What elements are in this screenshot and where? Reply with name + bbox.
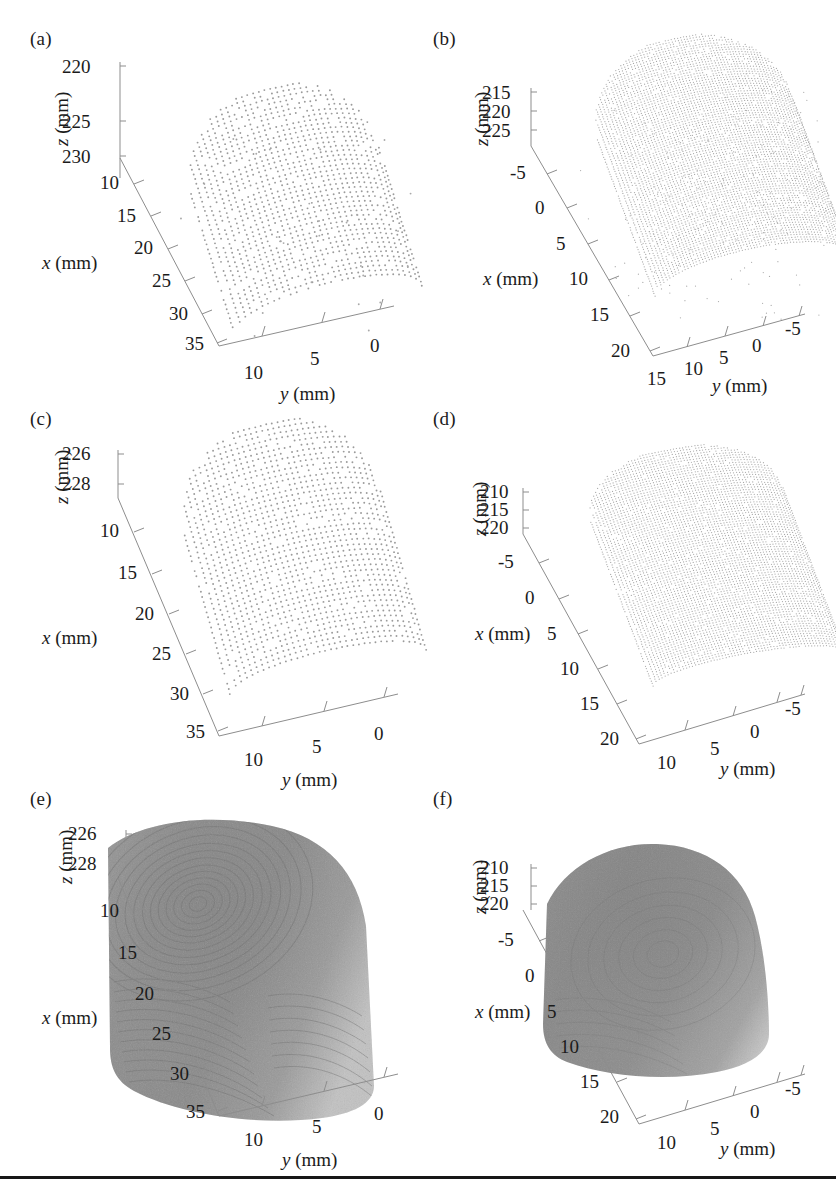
panel-d-ytick-2: 0 (750, 722, 760, 741)
panel-e-ytick-2: 0 (374, 1104, 384, 1123)
panel-d-xtick-0: -5 (498, 552, 514, 571)
panel-d-yaxis-name: y (mm) (720, 759, 775, 778)
panel-c-xtick-4: 30 (170, 684, 189, 703)
panel-b-plot: 215 220 225 z (mm) -5 0 5 10 15 20 x (mm… (425, 26, 825, 411)
panel-d-xtick-2: 5 (547, 624, 557, 643)
panel-f-plot: 210 215 220 z (mm) -5 0 5 10 15 20 x (mm… (425, 786, 825, 1171)
panel-b-xaxis-name: x (mm) (483, 269, 538, 288)
panel-f: (f) (425, 786, 825, 1171)
panel-f-ytick-1: 5 (710, 1119, 720, 1138)
panel-a-xtick-1: 15 (117, 206, 136, 225)
panel-e-xtick-4: 30 (170, 1064, 189, 1083)
panel-e-ytick-0: 10 (244, 1130, 263, 1149)
panel-d-plot: 210 215 220 z (mm) -5 0 5 10 15 20 x (mm… (425, 406, 825, 791)
footer-rule (0, 1176, 836, 1179)
panel-f-xtick-2: 5 (547, 1002, 557, 1021)
panel-b: (b) 215 220 (425, 26, 825, 411)
panel-d: (d) 210 215 (425, 406, 825, 791)
panel-a-point-cloud (180, 82, 423, 337)
panel-f-xtick-5: 20 (600, 1107, 619, 1126)
panel-d-ytick-1: 5 (710, 739, 720, 758)
panel-b-point-cloud (580, 34, 836, 320)
panel-c-xtick-1: 15 (118, 563, 137, 582)
panel-c-xtick-5: 35 (186, 722, 205, 741)
panel-f-ytick-2: 0 (750, 1102, 760, 1121)
panel-f-xtick-4: 15 (580, 1072, 599, 1091)
panel-b-zaxis-name: z (mm) (472, 92, 491, 146)
panel-c-ytick-0: 10 (244, 750, 263, 769)
panel-a-zaxis-name: z (mm) (52, 92, 71, 146)
panel-d-zaxis-name: z (mm) (470, 482, 489, 536)
panel-b-ytick-3: 0 (752, 336, 762, 355)
panel-e-xaxis-name: x (mm) (42, 1008, 97, 1027)
panel-a-xtick-4: 30 (169, 304, 188, 323)
panel-a-xtick-0: 10 (100, 173, 119, 192)
panel-d-xtick-4: 15 (580, 694, 599, 713)
panel-a: (a) (22, 26, 422, 411)
panel-e-ytick-1: 5 (312, 1117, 322, 1136)
panel-f-xtick-0: -5 (498, 930, 514, 949)
panel-b-xtick-4: 15 (590, 305, 609, 324)
panel-e-surface (54, 774, 392, 1136)
panel-b-xtick-3: 10 (569, 269, 588, 288)
panel-f-yaxis-name: y (mm) (720, 1139, 775, 1158)
panel-a-plot: 220 225 230 z (mm) 10 15 20 25 30 35 x (… (22, 26, 422, 411)
panel-e: (e) (22, 786, 422, 1171)
panel-a-ytick-2: 0 (370, 336, 380, 355)
panel-b-ytick-0: 15 (647, 369, 666, 388)
panel-d-point-cloud (589, 444, 836, 687)
panel-e-zaxis-name: z (mm) (56, 830, 75, 884)
panel-d-xaxis-name: x (mm) (475, 624, 530, 643)
panel-f-xaxis-name: x (mm) (475, 1002, 530, 1021)
panel-a-xaxis-name: x (mm) (42, 253, 97, 272)
panel-f-svg (425, 786, 825, 1171)
panel-d-ytick-3: -5 (785, 699, 801, 718)
panel-b-xtick-5: 20 (611, 341, 630, 360)
panel-d-ytick-0: 10 (657, 753, 676, 772)
panel-f-zaxis-name: z (mm) (470, 860, 489, 914)
panel-f-ytick-3: -5 (785, 1079, 801, 1098)
panel-b-xtick-1: 0 (535, 198, 545, 217)
panel-e-xtick-1: 15 (118, 943, 137, 962)
panel-d-xtick-1: 0 (525, 588, 535, 607)
panel-b-ytick-2: 5 (719, 348, 729, 367)
panel-a-ztick-2: 230 (62, 147, 91, 166)
panel-e-xtick-2: 20 (135, 984, 154, 1003)
panel-a-svg (22, 26, 422, 411)
panel-a-ytick-1: 5 (310, 349, 320, 368)
panel-b-ytick-1: 10 (684, 359, 703, 378)
panel-a-xtick-5: 35 (185, 334, 204, 353)
panel-e-yaxis-name: y (mm) (282, 1150, 337, 1169)
panel-b-xtick-0: -5 (510, 163, 526, 182)
panel-a-yaxis-name: y (mm) (280, 384, 335, 403)
panel-c-xtick-3: 25 (152, 644, 171, 663)
panel-d-xtick-5: 20 (600, 729, 619, 748)
panel-b-xtick-2: 5 (556, 234, 566, 253)
panel-e-plot: 226 228 z (mm) 10 15 20 25 30 35 x (mm) … (22, 786, 422, 1171)
panel-d-svg (425, 406, 825, 791)
panel-c-zaxis-name: z (mm) (52, 450, 71, 504)
panel-b-ytick-4: -5 (785, 319, 801, 338)
panel-b-yaxis-name: y (mm) (712, 376, 767, 395)
panel-c-xtick-2: 20 (135, 604, 154, 623)
panel-a-ytick-0: 10 (244, 363, 263, 382)
panel-a-xtick-2: 20 (134, 238, 153, 257)
panel-c-xaxis-name: x (mm) (42, 628, 97, 647)
panel-c-ytick-2: 0 (374, 724, 384, 743)
panel-a-xtick-3: 25 (152, 271, 171, 290)
panel-d-xtick-3: 10 (560, 659, 579, 678)
panel-e-xtick-3: 25 (152, 1024, 171, 1043)
panel-f-xtick-3: 10 (560, 1037, 579, 1056)
panel-e-xtick-5: 35 (186, 1102, 205, 1121)
panel-c-ytick-1: 5 (312, 737, 322, 756)
panel-c-xtick-0: 10 (100, 521, 119, 540)
panel-c-plot: 226 228 z (mm) 10 15 20 25 30 35 x (mm) … (22, 406, 422, 791)
panel-e-xtick-0: 10 (100, 901, 119, 920)
panel-f-ytick-0: 10 (657, 1133, 676, 1152)
panel-c: (c) 226 228 z (mm) 10 (22, 406, 422, 791)
panel-c-point-cloud (183, 418, 427, 695)
panel-a-ztick-0: 220 (62, 57, 91, 76)
panel-f-xtick-1: 0 (525, 966, 535, 985)
figure-3d-fingertip-scans: (a) (0, 0, 836, 1195)
